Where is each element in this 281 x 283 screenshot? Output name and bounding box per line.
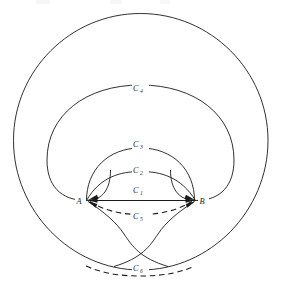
- label-c5: C 5: [132, 211, 149, 222]
- label-c6: C 6: [132, 263, 149, 274]
- label-c6-sub: 6: [140, 268, 143, 274]
- label-c3-sub: 3: [139, 144, 143, 150]
- curve-lower-left-descending: [88, 202, 168, 267]
- nested-curves-diagram: C 4 C 3 C 2 C 1 C 5 C: [0, 0, 281, 283]
- label-c5-sub: 5: [140, 216, 143, 222]
- label-c4-base: C: [133, 84, 139, 93]
- label-c4-sub: 4: [140, 88, 143, 94]
- curve-lower-right-descending: [114, 202, 195, 267]
- label-c3: C 3: [132, 139, 149, 150]
- label-c1-sub: 1: [140, 190, 143, 196]
- arrowheads-at-point-a: [88, 195, 99, 208]
- svg-text:A: A: [76, 197, 83, 206]
- label-c3-base: C: [133, 140, 139, 149]
- page-text-remnant: [36, 0, 170, 4]
- label-c5-base: C: [133, 212, 139, 221]
- label-c1: C 1: [132, 185, 149, 196]
- label-c2: C 2: [132, 165, 149, 176]
- label-point-a: A: [75, 194, 86, 206]
- label-c2-sub: 2: [140, 170, 143, 176]
- label-point-b: B: [198, 194, 209, 206]
- label-c6-base: C: [133, 264, 139, 273]
- label-c2-base: C: [133, 166, 139, 175]
- svg-text:B: B: [200, 197, 205, 206]
- label-c1-base: C: [133, 186, 139, 195]
- figure-container: C 4 C 3 C 2 C 1 C 5 C: [0, 0, 281, 283]
- label-c4: C 4: [132, 83, 149, 94]
